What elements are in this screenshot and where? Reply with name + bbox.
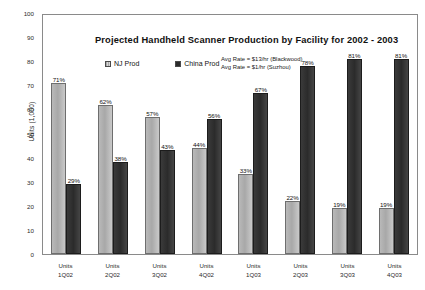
bar-china-prod[interactable]: 67% [253,93,268,254]
bar-nj-prod[interactable]: 71% [51,83,66,254]
chart-container: Units (1,000) 0102030405060708090100 Pro… [0,0,425,290]
x-axis-label-group: Units1Q02Units2Q02Units3Q02Units4Q02Unit… [42,262,418,280]
x-axis-label-top: Units [230,262,277,271]
bar-china-prod[interactable]: 43% [160,150,175,254]
bar-value-label: 57% [146,110,158,117]
bar-nj-prod[interactable]: 62% [98,105,113,254]
y-axis-title: Units (1,000) [28,92,35,152]
x-axis-label: Units1Q02 [42,262,89,280]
y-axis-tick-100: 100 [8,10,34,17]
y-axis-tick-20: 20 [8,203,34,210]
y-axis-tick-40: 40 [8,155,34,162]
x-axis-label: Units3Q02 [136,262,183,280]
bar-group: 19%81% [370,13,417,254]
x-axis-label: Units1Q03 [230,262,277,280]
y-axis-tick-80: 80 [8,58,34,65]
bar-value-label: 43% [161,143,173,150]
y-axis-tick-70: 70 [8,82,34,89]
bar-china-prod[interactable]: 81% [347,59,362,254]
bar-group: 57%43% [137,13,184,254]
bar-nj-prod[interactable]: 19% [379,208,394,254]
bar-value-label: 56% [208,112,220,119]
bar-value-label: 19% [333,201,345,208]
x-axis-label-bottom: 1Q03 [230,271,277,280]
x-axis-label-bottom: 4Q03 [371,271,418,280]
bar-value-label: 81% [395,52,407,59]
bar-value-label: 71% [53,76,65,83]
x-axis-label: Units4Q03 [371,262,418,280]
x-axis-label-bottom: 3Q02 [136,271,183,280]
bar-value-label: 22% [286,194,298,201]
bar-value-label: 62% [99,98,111,105]
bar-value-label: 38% [114,155,126,162]
y-axis-tick-90: 90 [8,34,34,41]
x-axis-label-bottom: 4Q02 [183,271,230,280]
bar-group: 44%56% [183,13,230,254]
bar-group-container: 71%29%62%38%57%43%44%56%33%67%22%78%19%8… [43,13,417,254]
bar-value-label: 33% [240,167,252,174]
x-axis-label: Units3Q03 [324,262,371,280]
x-axis-label-top: Units [324,262,371,271]
x-axis-label: Units2Q02 [89,262,136,280]
bar-value-label: 81% [348,52,360,59]
bar-nj-prod[interactable]: 44% [192,148,207,254]
bar-nj-prod[interactable]: 22% [285,201,300,254]
bar-nj-prod[interactable]: 57% [145,117,160,254]
bar-china-prod[interactable]: 78% [300,66,315,254]
bar-nj-prod[interactable]: 33% [238,174,253,254]
x-axis-label-top: Units [136,262,183,271]
bar-group: 19%81% [324,13,371,254]
bar-value-label: 67% [255,86,267,93]
x-axis-label-top: Units [371,262,418,271]
bar-value-label: 78% [301,59,313,66]
bar-group: 22%78% [277,13,324,254]
plot-area: Projected Handheld Scanner Production by… [42,14,418,255]
bar-china-prod[interactable]: 56% [207,119,222,254]
x-axis-label-bottom: 2Q02 [89,271,136,280]
y-axis-tick-60: 60 [8,106,34,113]
x-axis-label-top: Units [89,262,136,271]
bar-value-label: 44% [193,141,205,148]
bar-group: 71%29% [43,13,90,254]
bar-value-label: 19% [380,201,392,208]
x-axis-label-top: Units [183,262,230,271]
bar-china-prod[interactable]: 38% [113,162,128,254]
y-axis-tick-10: 10 [8,227,34,234]
x-axis-label-bottom: 1Q02 [42,271,89,280]
y-axis-tick-30: 30 [8,179,34,186]
x-axis-label: Units2Q03 [277,262,324,280]
x-axis-label-bottom: 2Q03 [277,271,324,280]
bar-nj-prod[interactable]: 19% [332,208,347,254]
bar-china-prod[interactable]: 29% [66,184,81,254]
x-axis-label-bottom: 3Q03 [324,271,371,280]
x-axis-label: Units4Q02 [183,262,230,280]
x-axis-label-top: Units [277,262,324,271]
bar-group: 62%38% [90,13,137,254]
y-axis-tick-50: 50 [8,131,34,138]
bar-china-prod[interactable]: 81% [394,59,409,254]
bar-group: 33%67% [230,13,277,254]
bar-value-label: 29% [68,177,80,184]
x-axis-label-top: Units [42,262,89,271]
y-axis-tick-0: 0 [8,251,34,258]
